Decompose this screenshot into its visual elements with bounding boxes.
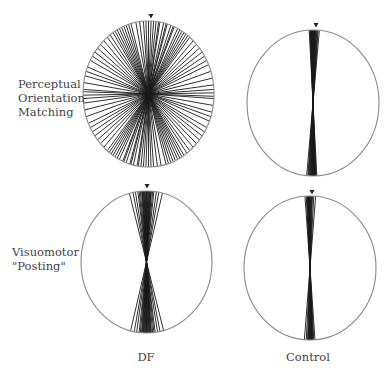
row-label-perceptual: Perceptual Orientation Matching	[18, 77, 85, 119]
column-label-df: DF	[106, 350, 186, 364]
panel-control-perceptual	[247, 23, 379, 176]
column-label-control: Control	[268, 350, 348, 364]
row-label-line: Orientation	[18, 91, 85, 105]
row-label-line: "Posting"	[12, 259, 79, 273]
vertical-marker-icon	[314, 23, 319, 28]
orientation-figure	[0, 0, 387, 375]
row-label-visuomotor: Visuomotor "Posting"	[12, 245, 79, 273]
row-label-line: Matching	[18, 105, 85, 119]
panel-df-visuomotor	[81, 184, 212, 333]
vertical-marker-icon	[310, 190, 315, 195]
vertical-marker-icon	[145, 184, 150, 189]
panel-control-visuomotor	[244, 190, 376, 340]
row-label-line: Visuomotor	[12, 245, 79, 259]
vertical-marker-icon	[149, 14, 154, 19]
panel-df-perceptual	[83, 14, 214, 167]
row-label-line: Perceptual	[18, 77, 85, 91]
